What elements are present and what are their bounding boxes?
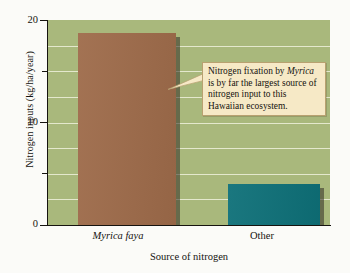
bar-other-face: [228, 184, 320, 225]
bar-myrica-faya[interactable]: [78, 33, 176, 225]
x-axis-line: [40, 225, 331, 226]
y-tick-15: [42, 71, 48, 72]
y-tick-label-0: 0: [33, 219, 38, 230]
x-tick-label-myrica-faya: Myrica faya: [48, 230, 188, 241]
y-axis-title: Nitrogen inputs (kg/ha/year): [24, 15, 35, 205]
x-axis-title: Source of nitrogen: [48, 251, 330, 262]
annotation-leader-line: [168, 73, 204, 90]
y-tick-20: [40, 20, 48, 21]
y-tick-5: [42, 173, 48, 174]
annotation-line-2-rest: is by far the: [208, 78, 253, 88]
x-tick-label-other: Other: [192, 230, 332, 241]
annotation-line-5: Hawaiian ecosystem.: [208, 101, 288, 111]
bar-other-shadow: [320, 188, 324, 225]
bar-other[interactable]: [228, 184, 320, 225]
figure-canvas: 20 10 0 Nitrogen inputs (kg/ha/year) Myr…: [0, 0, 350, 273]
annotation-line-1: Nitrogen fixation by: [208, 66, 285, 76]
annotation-line-4: nitrogen input to this: [208, 89, 286, 99]
y-tick-0: [40, 225, 48, 226]
bar-myrica-faya-shadow: [176, 37, 180, 225]
plot-area: [48, 20, 330, 225]
annotation-line-3: largest source of: [255, 78, 317, 88]
y-tick-10: [40, 122, 48, 123]
annotation-callout: Nitrogen fixation by Myrica is by far th…: [202, 62, 326, 116]
bar-myrica-faya-face: [78, 33, 176, 225]
annotation-emphasis-myrica: Myrica: [287, 66, 314, 76]
